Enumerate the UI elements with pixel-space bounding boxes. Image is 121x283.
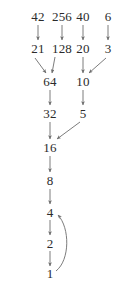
node-64: 64 [43,75,56,88]
node-42: 42 [31,10,44,23]
node-3: 3 [105,42,112,55]
node-16: 16 [43,141,56,154]
collatz-diagram: 42256406211282036410325168421 [0,0,121,283]
node-8: 8 [47,174,54,187]
node-10: 10 [76,75,89,88]
edge-1-to-4 [56,215,67,271]
node-20: 20 [76,42,89,55]
node-2: 2 [47,237,54,250]
node-5: 5 [80,107,87,120]
node-40: 40 [76,10,89,23]
node-6: 6 [105,10,112,23]
node-21: 21 [31,42,44,55]
edge-3-to-10 [89,58,106,73]
edge-128-to-64 [52,57,55,73]
node-32: 32 [43,107,56,120]
node-1: 1 [47,267,54,280]
node-256: 256 [52,10,72,23]
edge-21-to-64 [35,58,46,73]
node-128: 128 [52,42,72,55]
edge-5-to-16 [57,122,80,139]
node-4: 4 [47,206,54,219]
